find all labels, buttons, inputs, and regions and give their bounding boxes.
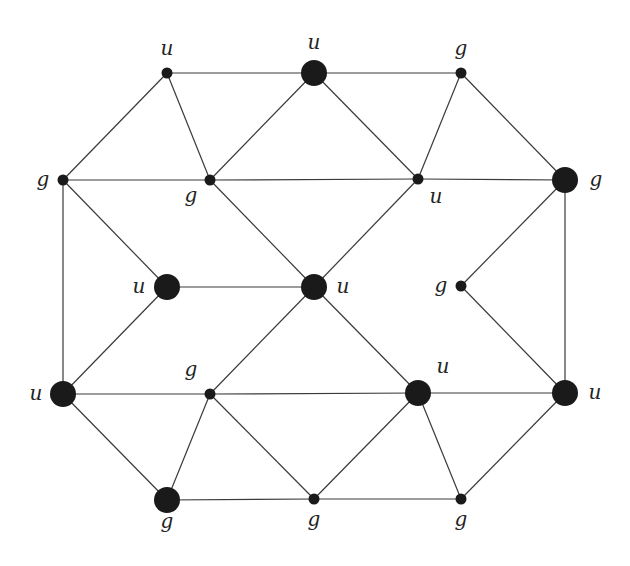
edge-n10-n14 xyxy=(461,286,565,393)
node-n11-large xyxy=(50,381,76,407)
node-n13-large xyxy=(405,380,431,406)
edge-n9-n13 xyxy=(314,287,418,393)
node-n7-large xyxy=(552,167,578,193)
edge-n3-n6 xyxy=(418,73,461,179)
node-n6-small xyxy=(413,174,424,185)
nodes-layer xyxy=(50,60,578,513)
node-n10-small xyxy=(456,281,467,292)
node-n8-large xyxy=(154,274,180,300)
node-label-n17: g xyxy=(455,507,468,531)
node-n1-small xyxy=(162,68,173,79)
edge-n5-n6 xyxy=(210,179,418,180)
node-label-n11: u xyxy=(30,381,43,405)
edge-n6-n9 xyxy=(314,179,418,287)
node-label-n16: g xyxy=(308,507,321,531)
edge-n5-n9 xyxy=(210,180,314,287)
node-label-n3: g xyxy=(455,36,468,60)
node-label-n6: u xyxy=(430,184,443,208)
node-n12-small xyxy=(205,389,216,400)
edge-n7-n10 xyxy=(461,180,565,286)
edge-n1-n5 xyxy=(167,73,210,180)
node-label-n13: u xyxy=(437,354,450,378)
node-label-n5: g xyxy=(185,183,198,207)
edge-n4-n8 xyxy=(63,180,167,287)
node-n3-small xyxy=(456,68,467,79)
edge-n14-n17 xyxy=(461,393,565,499)
node-label-n4: g xyxy=(37,167,50,191)
edge-n13-n17 xyxy=(418,393,461,499)
node-label-n7: g xyxy=(590,167,603,191)
node-label-n8: u xyxy=(133,274,146,298)
node-n17-small xyxy=(456,494,467,505)
edge-n9-n12 xyxy=(210,287,314,394)
edge-n3-n7 xyxy=(461,73,565,180)
node-label-n12: g xyxy=(185,357,198,381)
edge-n15-n16 xyxy=(167,499,314,500)
graph-canvas: uuggguguuguguuggg xyxy=(0,0,630,566)
node-label-n15: g xyxy=(161,509,174,533)
node-n4-small xyxy=(58,175,69,186)
edge-n6-n7 xyxy=(418,179,565,180)
edge-n2-n5 xyxy=(210,73,314,180)
node-label-n10: g xyxy=(435,273,448,297)
edge-n12-n16 xyxy=(210,394,314,499)
node-n14-large xyxy=(552,380,578,406)
node-n16-small xyxy=(309,494,320,505)
node-label-n1: u xyxy=(161,36,174,60)
node-n5-small xyxy=(205,175,216,186)
node-label-n2: u xyxy=(308,30,321,54)
edge-n8-n11 xyxy=(63,287,167,394)
edge-n12-n13 xyxy=(210,393,418,394)
node-label-n14: u xyxy=(589,380,602,404)
edge-n12-n15 xyxy=(167,394,210,500)
node-n9-large xyxy=(301,274,327,300)
node-label-n9: u xyxy=(337,274,350,298)
edge-n13-n16 xyxy=(314,393,418,499)
node-n2-large xyxy=(301,60,327,86)
graph-diagram: uuggguguuguguuggg xyxy=(0,0,630,566)
edge-n11-n15 xyxy=(63,394,167,500)
edge-n2-n6 xyxy=(314,73,418,179)
edge-n1-n4 xyxy=(63,73,167,180)
